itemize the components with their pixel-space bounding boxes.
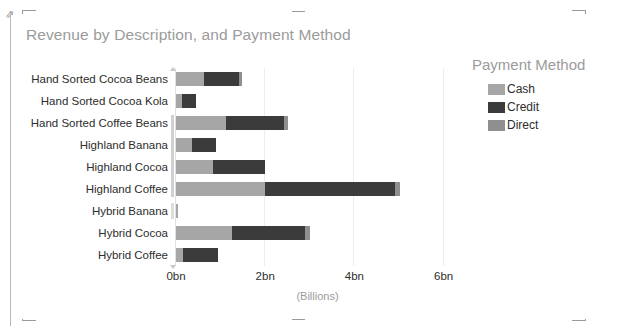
legend-title: Payment Method [458, 56, 606, 73]
value-axis-tick-label: 2bn [256, 270, 275, 282]
value-axis-labels: 0bn2bn4bn6bn [175, 270, 475, 288]
bar-segment-credit[interactable] [265, 182, 395, 196]
bar-segment-credit[interactable] [232, 226, 305, 240]
bar-row[interactable] [176, 226, 460, 240]
bar-row[interactable] [176, 204, 460, 218]
category-scrollbar-thumb[interactable] [171, 115, 174, 197]
left-margin-rule [10, 14, 11, 326]
bar-segment-cash[interactable] [176, 72, 204, 86]
legend-item-label: Cash [507, 82, 535, 96]
legend-item[interactable]: Credit [458, 98, 606, 116]
bar-row[interactable] [176, 116, 460, 130]
bar-segment-cash[interactable] [176, 226, 232, 240]
bar-segment-direct[interactable] [395, 182, 400, 196]
category-label: Highland Banana [18, 138, 168, 152]
plot-clip [175, 68, 460, 266]
legend-swatch-icon [488, 84, 505, 95]
value-axis-tick-label: 4bn [345, 270, 364, 282]
legend-items[interactable]: CashCreditDirect [458, 80, 606, 134]
category-axis-labels: Hand Sorted Cocoa BeansHand Sorted Cocoa… [18, 68, 168, 266]
category-label: Hybrid Coffee [18, 248, 168, 262]
legend-swatch-icon [488, 102, 505, 113]
bar-segment-direct[interactable] [239, 72, 242, 86]
category-label: Hand Sorted Coffee Beans [18, 116, 168, 130]
chart-title: Revenue by Description, and Payment Meth… [26, 26, 351, 44]
bar-segment-credit[interactable] [182, 94, 196, 108]
category-label: Highland Cocoa [18, 160, 168, 174]
category-label: Hand Sorted Cocoa Beans [18, 72, 168, 86]
bar-segment-cash[interactable] [176, 248, 183, 262]
bar-segment-credit[interactable] [204, 72, 240, 86]
legend[interactable]: Payment Method CashCreditDirect [458, 56, 606, 134]
value-axis-tick-label: 0bn [166, 270, 185, 282]
chart-visual[interactable]: Revenue by Description, and Payment Meth… [18, 14, 608, 319]
bar-segment-credit[interactable] [213, 160, 265, 174]
bar-row[interactable] [176, 138, 460, 152]
legend-item-label: Credit [507, 100, 539, 114]
category-label: Hand Sorted Cocoa Kola [18, 94, 168, 108]
category-label: Highland Coffee [18, 182, 168, 196]
bar-segment-direct[interactable] [284, 116, 288, 130]
value-axis-title: (Billions) [175, 290, 460, 302]
crop-mark-bottom-center [292, 319, 305, 320]
legend-item[interactable]: Cash [458, 80, 606, 98]
crop-mark-top-center [292, 11, 305, 12]
category-scrollbar-thumb[interactable] [171, 203, 174, 219]
category-label: Hybrid Cocoa [18, 226, 168, 240]
bar-segment-cash[interactable] [176, 160, 213, 174]
bar-row[interactable] [176, 160, 460, 174]
bar-segment-credit[interactable] [192, 138, 216, 152]
legend-swatch-icon [488, 120, 505, 131]
bar-segment-credit[interactable] [226, 116, 284, 130]
legend-item[interactable]: Direct [458, 116, 606, 134]
plot-area[interactable] [175, 68, 460, 266]
legend-item-label: Direct [507, 118, 538, 132]
category-label: Hybrid Banana [18, 204, 168, 218]
bar-segment-cash[interactable] [176, 138, 192, 152]
bar-segment-cash[interactable] [176, 182, 265, 196]
bar-segment-cash[interactable] [176, 204, 178, 218]
bar-row[interactable] [176, 182, 460, 196]
bar-segment-direct[interactable] [305, 226, 310, 240]
bar-row[interactable] [176, 94, 460, 108]
value-axis-tick-label: 6bn [434, 270, 453, 282]
bar-segment-cash[interactable] [176, 116, 226, 130]
bar-segment-credit[interactable] [183, 248, 218, 262]
bar-row[interactable] [176, 248, 460, 262]
bar-row[interactable] [176, 72, 460, 86]
